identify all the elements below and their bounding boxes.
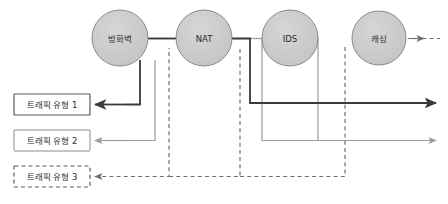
node-caching[interactable]: 캐싱 <box>352 11 406 65</box>
node-firewall[interactable]: 방화벽 <box>92 10 148 66</box>
network-traffic-flow-diagram: 방화벽 NAT IDS 캐싱 트래픽 유형 1 <box>0 0 448 204</box>
box-traffic-type-2[interactable]: 트래픽 유형 2 <box>14 130 90 151</box>
flow-3-bottom-run <box>169 48 240 177</box>
diagram-canvas: 방화벽 NAT IDS 캐싱 트래픽 유형 1 <box>0 0 448 204</box>
traffic-box-layer: 트래픽 유형 1 트래픽 유형 2 트래픽 유형 3 <box>14 94 90 187</box>
ids-label: IDS <box>283 34 297 44</box>
traffic-type-2-label: 트래픽 유형 2 <box>27 136 78 146</box>
node-ids[interactable]: IDS <box>262 10 318 66</box>
flow-path-traffic-type-3 <box>95 46 345 177</box>
node-nat[interactable]: NAT <box>176 10 232 66</box>
box-traffic-type-1[interactable]: 트래픽 유형 1 <box>14 94 90 115</box>
flow-1-riser-firewall <box>126 60 140 105</box>
traffic-type-3-label: 트래픽 유형 3 <box>27 172 78 182</box>
caching-label: 캐싱 <box>371 34 387 44</box>
nat-label: NAT <box>196 34 214 44</box>
box-traffic-type-3[interactable]: 트래픽 유형 3 <box>14 166 90 187</box>
traffic-type-1-label: 트래픽 유형 1 <box>27 100 78 110</box>
firewall-label: 방화벽 <box>108 34 132 44</box>
flow-3-riser-to-nat <box>131 48 169 177</box>
